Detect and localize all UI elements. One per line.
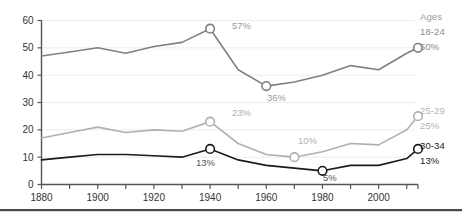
legend: Ages 18-24 50% 25-29 25% 30-34 13% [420,0,462,219]
marker-25-29-1940 [206,117,215,126]
series-lines [42,29,419,171]
legend-item-25-29-name: 25-29 [420,105,445,116]
marker-25-29-1970 [290,153,299,162]
chart-canvas: 0102030405060 18801900192019401960198020… [0,0,462,219]
callout-25-29-10%: 10% [298,135,318,146]
x-tick-label-1960: 1960 [255,192,278,203]
legend-item-18-24-value: 50% [420,41,439,52]
callout-18-24-36%: 36% [267,92,287,103]
x-tick-label-1980: 1980 [311,192,334,203]
marker-18-24-1940 [206,24,215,33]
y-tick-label-20: 20 [22,124,34,135]
y-tick-label-10: 10 [22,152,34,163]
y-tick-label-40: 40 [22,70,34,81]
series-line-18-24 [42,29,419,86]
y-tick-label-50: 50 [22,42,34,53]
y-axis-tick-labels: 0102030405060 [22,15,34,190]
series-markers [206,24,423,175]
x-tick-label-1940: 1940 [199,192,222,203]
x-tick-label-1920: 1920 [143,192,166,203]
x-tick-label-2000: 2000 [368,192,391,203]
x-axis-tick-labels: 1880190019201940196019802000 [30,192,390,203]
legend-item-25-29-value: 25% [420,120,439,131]
y-tick-label-0: 0 [28,179,34,190]
callout-18-24-57%: 57% [232,20,252,31]
marker-30-34-1940 [206,145,215,154]
callout-30-34-5%: 5% [323,172,337,183]
line-chart: 0102030405060 18801900192019401960198020… [0,0,462,219]
data-callouts: 57%36%23%10%13%5% [196,20,337,183]
y-tick-label-60: 60 [22,15,34,26]
y-tick-label-30: 30 [22,97,34,108]
x-tick-label-1880: 1880 [30,192,53,203]
legend-item-30-34-name: 30-34 [420,140,445,151]
series-line-30-34 [42,149,419,171]
series-line-25-29 [42,116,419,157]
bottom-divider [0,209,462,212]
legend-item-30-34-value: 13% [420,155,439,166]
callout-30-34-13%: 13% [196,157,216,168]
legend-title: Ages [420,11,442,22]
x-tick-label-1900: 1900 [87,192,110,203]
marker-18-24-1960 [262,82,271,91]
callout-25-29-23%: 23% [232,107,252,118]
legend-item-18-24-name: 18-24 [420,26,445,37]
